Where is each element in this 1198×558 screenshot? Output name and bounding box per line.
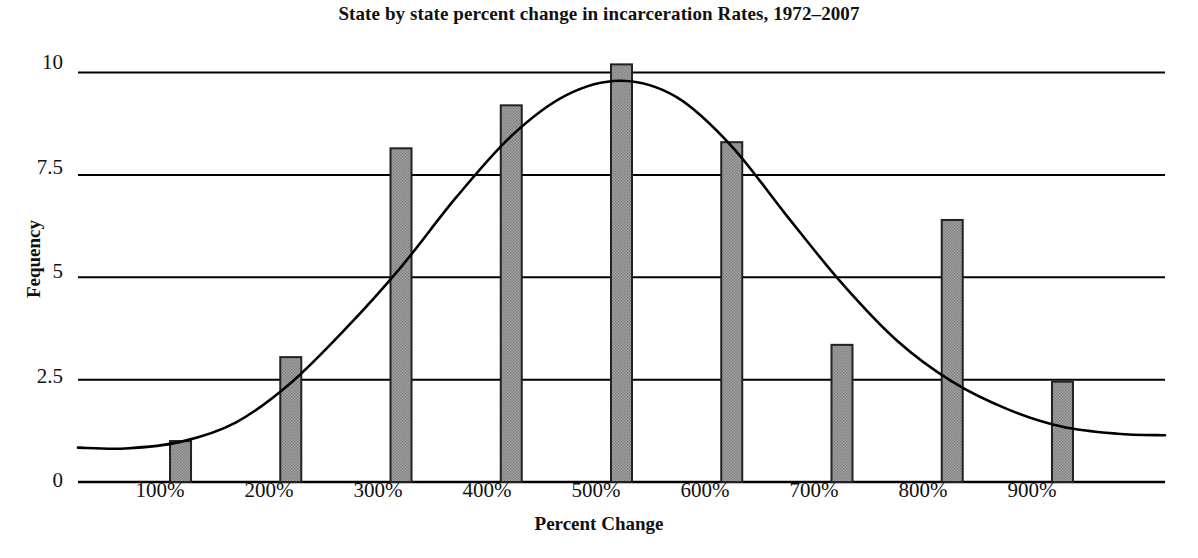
bar-series xyxy=(170,64,1073,482)
chart-figure: State by state percent change in incarce… xyxy=(0,0,1198,558)
bar-600pct xyxy=(721,142,742,482)
bar-900pct xyxy=(1052,382,1073,482)
bar-800pct xyxy=(942,220,963,482)
bar-100pct xyxy=(170,441,191,482)
bar-700pct xyxy=(831,345,852,482)
plot-area xyxy=(0,0,1198,558)
bar-400pct xyxy=(501,105,522,482)
bar-500pct xyxy=(611,64,632,482)
bar-300pct xyxy=(391,148,412,482)
